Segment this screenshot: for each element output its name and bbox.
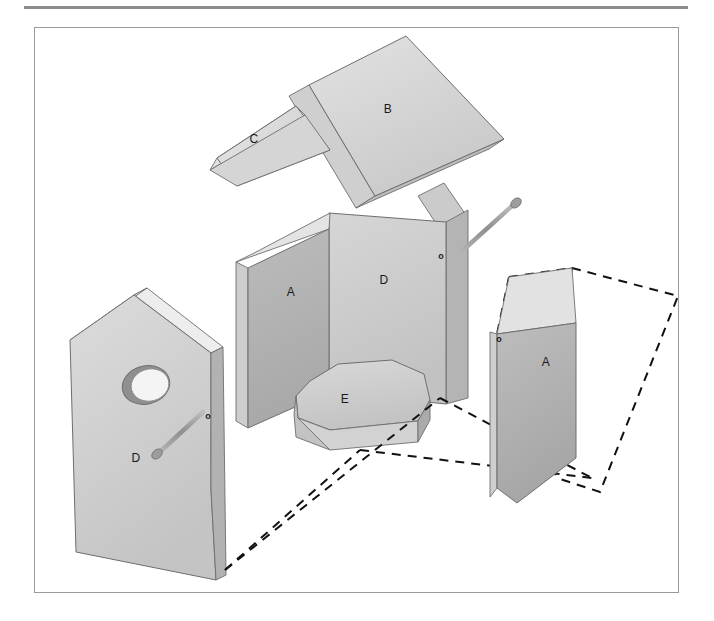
hole-marker-front-wall: o — [205, 411, 211, 421]
side-wall-right-top-bevel — [497, 268, 576, 334]
label-back-wall: D — [380, 273, 389, 287]
top-rule — [24, 6, 688, 9]
label-roof-secondary: C — [250, 132, 259, 146]
label-side-wall-right: A — [542, 355, 550, 369]
label-roof-main: B — [384, 102, 392, 116]
diagram-root: B C D o — [0, 0, 714, 621]
label-front-wall: D — [132, 451, 141, 465]
exploded-birdhouse-figure: B C D o — [0, 0, 714, 621]
hole-marker-right-wall: o — [496, 334, 502, 344]
hole-marker-back-wall: o — [438, 251, 444, 261]
side-wall-right-edge — [490, 332, 497, 497]
label-floor: E — [341, 392, 349, 406]
label-side-wall-left: A — [287, 285, 295, 299]
back-wall-edge — [446, 210, 468, 404]
part-front-wall: D o — [70, 288, 226, 580]
side-wall-left-edge — [236, 262, 248, 428]
